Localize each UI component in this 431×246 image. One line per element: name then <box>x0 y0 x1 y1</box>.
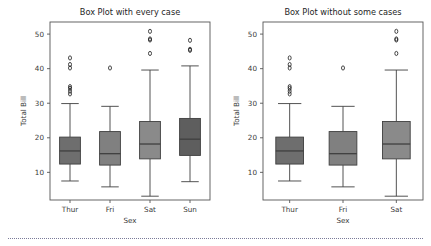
panel-title: Box Plot without some cases <box>284 7 401 17</box>
x-tick-label-fri: Fri <box>339 205 348 214</box>
box-rect <box>329 132 357 166</box>
outlier-marker <box>189 38 192 42</box>
y-tick-label: 30 <box>248 99 258 108</box>
box-group-thur <box>60 56 81 181</box>
box-group-sun <box>180 38 201 181</box>
outlier-marker <box>342 66 345 70</box>
plot-frame <box>50 22 210 200</box>
panel-title: Box Plot with every case <box>80 7 180 17</box>
y-tick-label: 20 <box>248 133 258 142</box>
y-tick-label: 50 <box>248 30 258 39</box>
outlier-marker <box>109 66 112 70</box>
box-rect <box>180 118 201 155</box>
box-group-thur <box>276 56 304 181</box>
footer-dotted-rule <box>8 238 423 239</box>
plot-panel-right: Box Plot without some cases1020304050Tot… <box>232 7 423 225</box>
y-axis-label: Total Bill <box>19 96 28 127</box>
x-tick-label-sat: Sat <box>390 205 402 214</box>
y-tick-label: 20 <box>35 133 45 142</box>
box-group-fri <box>329 66 357 187</box>
y-tick-label: 30 <box>35 99 45 108</box>
outlier-marker <box>149 51 152 55</box>
box-group-sat <box>382 29 410 196</box>
y-tick-label: 10 <box>248 168 258 177</box>
y-tick-label: 50 <box>35 30 45 39</box>
box-group-fri <box>100 66 121 187</box>
outlier-marker <box>288 56 291 60</box>
plot-panel-left: Box Plot with every case1020304050Total … <box>19 7 210 225</box>
x-tick-label-thur: Thur <box>61 205 79 214</box>
y-tick-label: 40 <box>248 64 258 73</box>
x-tick-label-sat: Sat <box>144 205 156 214</box>
x-tick-label-sun: Sun <box>183 205 197 214</box>
x-axis-label: Sex <box>336 216 350 225</box>
y-tick-label: 10 <box>35 168 45 177</box>
box-group-sat <box>140 29 161 196</box>
outlier-marker <box>149 29 152 33</box>
box-rect <box>140 122 161 159</box>
outlier-marker <box>395 51 398 55</box>
box-rect <box>382 122 410 159</box>
x-tick-label-fri: Fri <box>106 205 115 214</box>
box-rect <box>100 132 121 166</box>
y-axis-label: Total Bill <box>232 96 241 127</box>
outlier-marker <box>395 29 398 33</box>
box-plot-figure: Box Plot with every case1020304050Total … <box>0 0 431 246</box>
outlier-marker <box>69 56 72 60</box>
x-axis-label: Sex <box>123 216 137 225</box>
y-tick-label: 40 <box>35 64 45 73</box>
x-tick-label-thur: Thur <box>280 205 298 214</box>
